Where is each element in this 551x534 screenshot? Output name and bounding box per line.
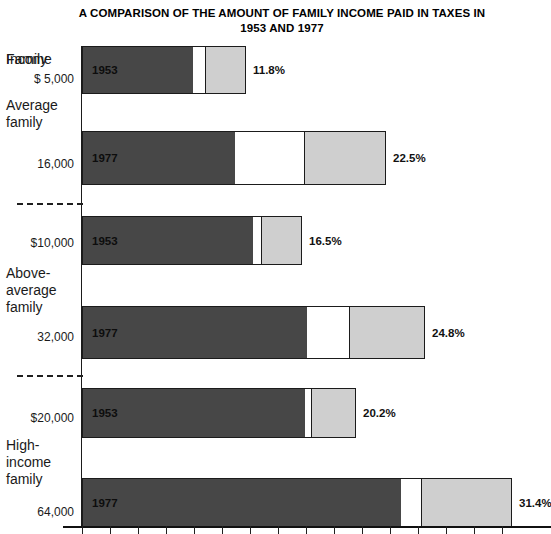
- bar-segment-state-local: [304, 132, 385, 184]
- bar-1977-16000[interactable]: 1977: [82, 131, 386, 185]
- x-axis-tick: [390, 526, 391, 534]
- bar-year-label: 1977: [92, 152, 118, 164]
- group-label-above-average-family-line-1: Above-: [6, 265, 50, 282]
- bar-segment-gap: [253, 217, 261, 264]
- x-axis-tick: [110, 526, 111, 534]
- group-separator-1: [17, 203, 83, 205]
- x-axis-tick: [166, 526, 167, 534]
- x-axis-line: [63, 526, 551, 528]
- plot-area: Family Income Average family Above- aver…: [0, 0, 551, 534]
- bar-year-label: 1977: [92, 327, 118, 339]
- bar-percent-label: 16.5%: [309, 235, 342, 247]
- group-label-average-family-line-2: family: [6, 114, 43, 131]
- bar-segment-state-local: [421, 479, 511, 527]
- x-axis-tick: [334, 526, 335, 534]
- category-label-5: $20,000: [0, 410, 74, 426]
- x-axis-tick: [138, 526, 139, 534]
- group-label-average-family-line-1: Average: [6, 97, 58, 114]
- table-row: 1953 11.8%: [82, 46, 551, 94]
- bar-segment-gap: [401, 479, 421, 527]
- table-row: 1953 20.2%: [82, 388, 551, 438]
- tax-comparison-chart: A COMPARISON OF THE AMOUNT OF FAMILY INC…: [0, 0, 551, 534]
- bar-1977-32000[interactable]: 1977: [82, 306, 425, 359]
- x-axis-tick: [418, 526, 419, 534]
- bar-percent-label: 11.8%: [253, 64, 285, 76]
- bar-year-label: 1977: [92, 497, 118, 509]
- axis-header-family-income-2: Income: [6, 51, 52, 68]
- bar-segment-federal: [83, 479, 401, 527]
- x-axis-tick: [250, 526, 251, 534]
- table-row: 1977 31.4%: [82, 478, 551, 528]
- x-axis-tick: [474, 526, 475, 534]
- category-label-3: $10,000: [0, 235, 74, 251]
- category-label-1: $ 5,000: [0, 71, 74, 87]
- group-label-above-average-family-line-2: average: [6, 282, 57, 299]
- group-label-high-income-family-line-2: income: [6, 454, 51, 471]
- category-label-4: 32,000: [0, 329, 74, 345]
- x-axis-tick: [222, 526, 223, 534]
- group-separator-2: [17, 375, 83, 377]
- group-label-high-income-family-line-3: family: [6, 471, 43, 488]
- group-label-high-income-family-line-1: High-: [6, 437, 39, 454]
- x-axis-tick: [306, 526, 307, 534]
- bar-percent-label: 20.2%: [363, 407, 396, 419]
- bar-1953-5000[interactable]: 1953: [82, 46, 246, 94]
- category-label-2: 16,000: [0, 156, 74, 172]
- bar-segment-gap: [193, 47, 205, 93]
- table-row: 1977 22.5%: [82, 131, 551, 185]
- x-axis-tick: [502, 526, 503, 534]
- table-row: 1953 16.5%: [82, 216, 551, 265]
- bar-segment-gap: [235, 132, 304, 184]
- x-axis-tick: [194, 526, 195, 534]
- bar-1977-64000[interactable]: 1977: [82, 478, 512, 528]
- bar-segment-state-local: [261, 217, 301, 264]
- bar-year-label: 1953: [92, 407, 118, 419]
- group-label-above-average-family-line-3: family: [6, 299, 43, 316]
- bar-segment-state-local: [311, 389, 355, 437]
- y-axis-line: [81, 46, 82, 528]
- x-axis-tick: [362, 526, 363, 534]
- x-axis-tick: [278, 526, 279, 534]
- bar-segment-state-local: [349, 307, 424, 358]
- x-axis-tick: [82, 526, 83, 534]
- bar-year-label: 1953: [92, 64, 118, 76]
- table-row: 1977 24.8%: [82, 306, 551, 359]
- bar-percent-label: 22.5%: [393, 152, 426, 164]
- bar-year-label: 1953: [92, 235, 118, 247]
- bar-segment-gap: [307, 307, 349, 358]
- bar-segment-state-local: [205, 47, 245, 93]
- bar-1953-20000[interactable]: 1953: [82, 388, 356, 438]
- category-label-6: 64,000: [0, 504, 74, 520]
- bar-percent-label: 31.4%: [519, 497, 551, 509]
- bar-percent-label: 24.8%: [432, 327, 465, 339]
- bar-1953-10000[interactable]: 1953: [82, 216, 302, 265]
- x-axis-tick: [446, 526, 447, 534]
